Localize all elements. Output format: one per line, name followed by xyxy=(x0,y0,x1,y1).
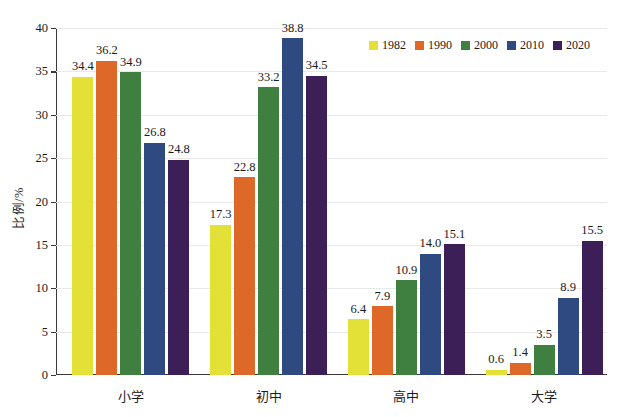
y-tick-mark xyxy=(51,71,56,72)
bar-column: 15.5 xyxy=(582,28,603,375)
y-tick-mark xyxy=(51,288,56,289)
bar-value-label: 34.9 xyxy=(120,56,142,69)
bar-column: 14.0 xyxy=(420,28,441,375)
legend-label: 2000 xyxy=(474,38,498,53)
legend-label: 2020 xyxy=(566,38,590,53)
y-tick-label: 15 xyxy=(36,237,49,252)
bar-value-label: 8.9 xyxy=(560,281,576,294)
legend-swatch-icon xyxy=(507,41,516,50)
bar-column: 15.1 xyxy=(444,28,465,375)
bar-column: 33.2 xyxy=(258,28,279,375)
bar-value-label: 10.9 xyxy=(395,264,417,277)
y-tick-label: 20 xyxy=(36,194,49,209)
plot-area: 0510152025303540 34.436.234.926.824.817.… xyxy=(56,28,607,375)
bar-column: 0.6 xyxy=(486,28,507,375)
bar xyxy=(534,345,555,375)
bar-value-label: 22.8 xyxy=(234,161,256,174)
y-axis-title: 比例/% xyxy=(8,168,27,248)
bar-column: 10.9 xyxy=(396,28,417,375)
legend-label: 1990 xyxy=(428,38,452,53)
bar-column: 6.4 xyxy=(348,28,369,375)
legend: 19821990200020102020 xyxy=(369,38,590,53)
y-tick-mark xyxy=(51,332,56,333)
bar-column: 26.8 xyxy=(144,28,165,375)
bar xyxy=(258,87,279,375)
y-tick-label: 10 xyxy=(36,281,49,296)
bar xyxy=(396,280,417,375)
legend-item: 2000 xyxy=(461,38,498,53)
x-axis-category-label: 大学 xyxy=(531,386,557,405)
bar xyxy=(144,143,165,375)
bar-column: 36.2 xyxy=(96,28,117,375)
bar-column: 22.8 xyxy=(234,28,255,375)
y-tick-label: 40 xyxy=(36,21,49,36)
legend-swatch-icon xyxy=(461,41,470,50)
legend-item: 1982 xyxy=(369,38,406,53)
x-axis-category-label: 初中 xyxy=(256,386,282,405)
bar-value-label: 34.5 xyxy=(306,59,328,72)
bar-value-label: 14.0 xyxy=(419,237,441,250)
legend-swatch-icon xyxy=(369,41,378,50)
y-tick-label: 25 xyxy=(36,151,49,166)
bar xyxy=(582,241,603,375)
bar-value-label: 26.8 xyxy=(144,126,166,139)
bar xyxy=(486,370,507,375)
bar-value-label: 15.5 xyxy=(581,224,603,237)
bar xyxy=(420,254,441,375)
bar-value-label: 34.4 xyxy=(72,60,94,73)
bar-column: 34.4 xyxy=(72,28,93,375)
bar-group: 0.61.43.58.915.5 xyxy=(486,28,603,375)
bar-value-label: 17.3 xyxy=(210,208,232,221)
bar-column: 7.9 xyxy=(372,28,393,375)
bar-value-label: 3.5 xyxy=(536,328,552,341)
bar-column: 8.9 xyxy=(558,28,579,375)
legend-swatch-icon xyxy=(415,41,424,50)
y-tick-mark xyxy=(51,375,56,376)
legend-item: 1990 xyxy=(415,38,452,53)
y-tick-mark xyxy=(51,158,56,159)
bar xyxy=(168,160,189,375)
y-tick-label: 0 xyxy=(42,368,48,383)
legend-item: 2020 xyxy=(553,38,590,53)
bar xyxy=(510,363,531,375)
bar-value-label: 36.2 xyxy=(96,44,118,57)
bar-value-label: 7.9 xyxy=(375,290,391,303)
bar xyxy=(348,319,369,375)
bar xyxy=(306,76,327,375)
bar-column: 3.5 xyxy=(534,28,555,375)
bar-column: 24.8 xyxy=(168,28,189,375)
bar-column: 17.3 xyxy=(210,28,231,375)
bar-value-label: 24.8 xyxy=(168,143,190,156)
bar xyxy=(372,306,393,375)
bar-column: 38.8 xyxy=(282,28,303,375)
bar xyxy=(282,38,303,375)
bar-column: 34.9 xyxy=(120,28,141,375)
y-tick-label: 35 xyxy=(36,64,49,79)
bar xyxy=(96,61,117,375)
y-tick-mark xyxy=(51,115,56,116)
bar xyxy=(558,298,579,375)
bar xyxy=(72,77,93,375)
bar-chart: 比例/% 0510152025303540 34.436.234.926.824… xyxy=(0,0,623,417)
legend-label: 1982 xyxy=(382,38,406,53)
y-tick-label: 5 xyxy=(42,324,48,339)
bar-value-label: 38.8 xyxy=(282,22,304,35)
bar xyxy=(234,177,255,375)
y-tick-mark xyxy=(51,202,56,203)
y-tick-label: 30 xyxy=(36,107,49,122)
bar xyxy=(120,72,141,375)
bar xyxy=(444,244,465,375)
legend-label: 2010 xyxy=(520,38,544,53)
bar-value-label: 15.1 xyxy=(443,228,465,241)
bar-group: 34.436.234.926.824.8 xyxy=(72,28,189,375)
bar-group: 17.322.833.238.834.5 xyxy=(210,28,327,375)
legend-swatch-icon xyxy=(553,41,562,50)
bar-value-label: 0.6 xyxy=(488,353,504,366)
x-axis-category-label: 高中 xyxy=(393,386,419,405)
x-axis-category-label: 小学 xyxy=(118,386,144,405)
legend-item: 2010 xyxy=(507,38,544,53)
bar xyxy=(210,225,231,375)
bar-column: 1.4 xyxy=(510,28,531,375)
bar-value-label: 6.4 xyxy=(351,303,367,316)
y-tick-mark xyxy=(51,28,56,29)
